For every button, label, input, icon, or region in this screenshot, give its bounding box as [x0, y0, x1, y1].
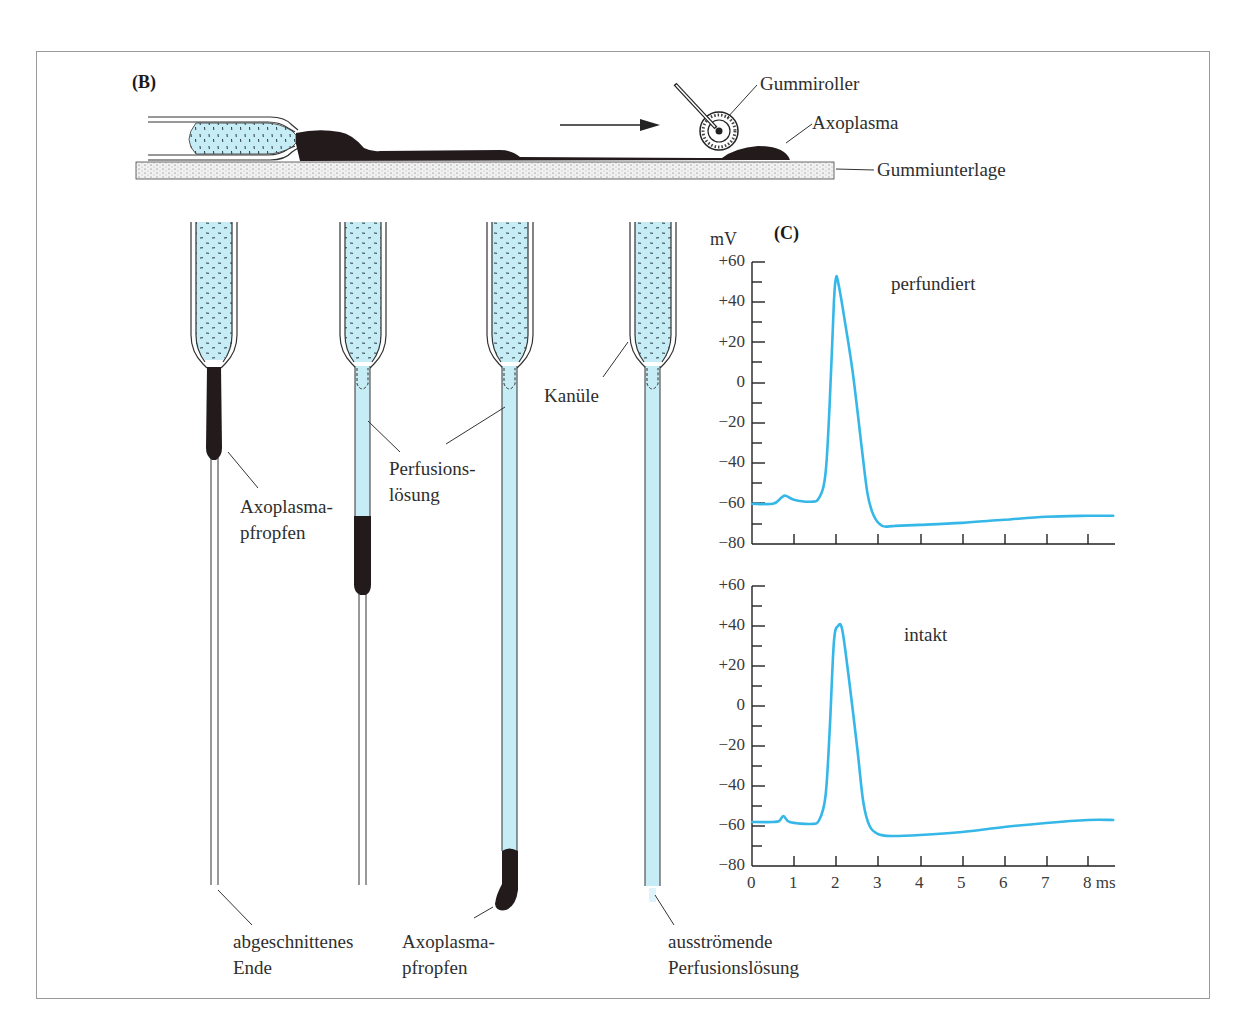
roller-diagram: [136, 84, 874, 179]
axoplasm-plug-2: [354, 516, 371, 595]
x-tick-label: 1: [789, 873, 798, 893]
label-cut-end-line1: abgeschnittenes: [233, 931, 353, 953]
leader-roller: [727, 85, 757, 118]
axoplasm-plug-1: [206, 367, 222, 460]
x-tick-label: 4: [915, 873, 924, 893]
chart-title-intact: intakt: [904, 624, 947, 646]
leader-base: [836, 169, 874, 170]
cannula-stage-3: [487, 222, 533, 910]
y-tick-label: −80: [697, 533, 745, 553]
trace-intact: [752, 624, 1113, 836]
label-plug-1-line2: pfropfen: [240, 522, 305, 544]
x-tick-label: 6: [999, 873, 1008, 893]
label-perfusion-line2: lösung: [389, 484, 440, 506]
x-tick-label: 0: [747, 873, 756, 893]
x-tick-label: 3: [873, 873, 882, 893]
y-tick-label: +60: [697, 575, 745, 595]
cannula-stage-2: [340, 222, 386, 885]
leader-outflow: [655, 895, 674, 925]
axoplasm-plug-3: [495, 849, 518, 911]
y-tick-label: +20: [697, 332, 745, 352]
label-rubber-base: Gummiunterlage: [877, 159, 1006, 181]
direction-arrow-icon: [560, 119, 660, 131]
x-tick-label: 2: [831, 873, 840, 893]
y-tick-label: −80: [697, 855, 745, 875]
label-outflow-line2: Perfusionslösung: [668, 957, 799, 979]
y-tick-label: 0: [697, 695, 745, 715]
outflow-fluid: [649, 888, 656, 902]
y-tick-label: +60: [697, 251, 745, 271]
y-tick-label: −40: [697, 452, 745, 472]
label-cut-end-line2: Ende: [233, 957, 272, 979]
y-tick-label: −60: [697, 493, 745, 513]
leader-perfusion-left: [368, 421, 400, 452]
cannula-stage-4: [630, 222, 676, 902]
label-outflow-line1: ausströmende: [668, 931, 772, 953]
label-cannula: Kanüle: [544, 385, 599, 407]
y-tick-label: +40: [697, 615, 745, 635]
y-tick-label: −40: [697, 775, 745, 795]
y-axis-unit: mV: [710, 228, 737, 250]
label-perfusion-line1: Perfusions-: [389, 458, 476, 480]
y-tick-label: +40: [697, 291, 745, 311]
leader-cut-end: [218, 890, 252, 925]
perfusion-fluid-horizontal: [189, 123, 296, 154]
leader-axoplasm: [786, 124, 812, 143]
label-plug-3-line1: Axoplasma-: [402, 931, 495, 953]
leader-plug-3: [474, 907, 493, 918]
y-tick-label: −20: [697, 735, 745, 755]
x-tick-label: 8 ms: [1083, 873, 1116, 893]
x-tick-label: 5: [957, 873, 966, 893]
y-tick-label: −20: [697, 412, 745, 432]
label-plug-1-line1: Axoplasma-: [240, 496, 333, 518]
trace-perfused: [752, 276, 1113, 527]
label-axoplasm: Axoplasma: [812, 112, 899, 134]
leader-cannula: [603, 342, 628, 377]
y-tick-label: −60: [697, 815, 745, 835]
cannula-stage-1: [191, 222, 237, 885]
label-plug-3-line2: pfropfen: [402, 957, 467, 979]
x-tick-label: 7: [1041, 873, 1050, 893]
leader-perfusion-right: [446, 407, 505, 444]
chart-title-perfused: perfundiert: [891, 273, 975, 295]
rubber-base: [136, 162, 834, 179]
label-rubber-roller: Gummiroller: [760, 73, 859, 95]
leader-plug-1: [228, 452, 258, 488]
y-tick-label: 0: [697, 372, 745, 392]
y-tick-label: +20: [697, 655, 745, 675]
